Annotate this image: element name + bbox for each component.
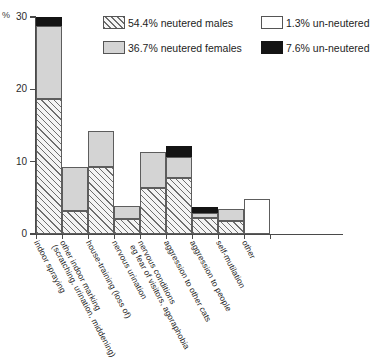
bar-segment <box>218 209 244 221</box>
white-swatch <box>261 16 283 29</box>
x-axis-label-9: other <box>240 239 257 261</box>
chart-legend: 54.4% neutered males 1.3% un-neutered 36… <box>103 16 361 62</box>
bar-segment <box>88 167 114 234</box>
bar-5 <box>140 152 166 234</box>
x-label-line: (scratching, urination, middening) <box>49 243 116 359</box>
bar-4 <box>114 206 140 234</box>
y-tick-label-30: 30 <box>3 11 27 22</box>
bar-2 <box>62 167 88 234</box>
bar-7 <box>192 207 218 234</box>
bar-segment <box>192 218 218 234</box>
light-gray-swatch <box>103 41 125 54</box>
x-axis-labels: indoor sprayingother indoor marking(scra… <box>0 239 370 359</box>
y-tick-label-20: 20 <box>3 83 27 94</box>
bar-segment <box>166 146 192 156</box>
bar-segment <box>244 199 270 234</box>
bar-segment <box>36 99 62 234</box>
hatched-swatch <box>103 16 125 29</box>
x-axis-line <box>35 234 343 235</box>
legend-item-neutered-males: 54.4% neutered males <box>103 16 233 29</box>
legend-label: 1.3% un-neutered <box>286 17 369 29</box>
bar-segment <box>218 221 244 234</box>
legend-label: 36.7% neutered females <box>128 42 242 54</box>
bar-3 <box>88 131 114 234</box>
bar-segment <box>140 152 166 188</box>
y-tick-label-10: 10 <box>3 156 27 167</box>
legend-label: 54.4% neutered males <box>128 17 233 29</box>
bar-9 <box>244 199 270 234</box>
bar-segment <box>192 213 218 218</box>
bar-segment <box>166 157 192 178</box>
x-label-line: other <box>240 239 257 261</box>
bar-segment <box>192 207 218 213</box>
bar-segment <box>114 219 140 234</box>
bar-1 <box>36 17 62 234</box>
stacked-bar-chart: % 0102030 54.4% neutered males 1.3% un-n… <box>0 0 370 359</box>
legend-item-neutered-females: 36.7% neutered females <box>103 41 242 54</box>
black-swatch <box>261 41 283 54</box>
bar-segment <box>36 17 62 26</box>
legend-item-un-neutered-black: 7.6% un-neutered <box>261 41 369 54</box>
bar-segment <box>36 26 62 100</box>
legend-item-un-neutered-white: 1.3% un-neutered <box>261 16 369 29</box>
bar-segment <box>140 188 166 234</box>
bar-segment <box>62 167 88 211</box>
bar-segment <box>62 211 88 234</box>
bar-segment <box>114 206 140 219</box>
bar-8 <box>218 209 244 234</box>
bar-6 <box>166 146 192 234</box>
legend-label: 7.6% un-neutered <box>286 42 369 54</box>
bar-segment <box>166 178 192 234</box>
bar-segment <box>88 131 114 167</box>
y-tick-label-0: 0 <box>3 228 27 239</box>
